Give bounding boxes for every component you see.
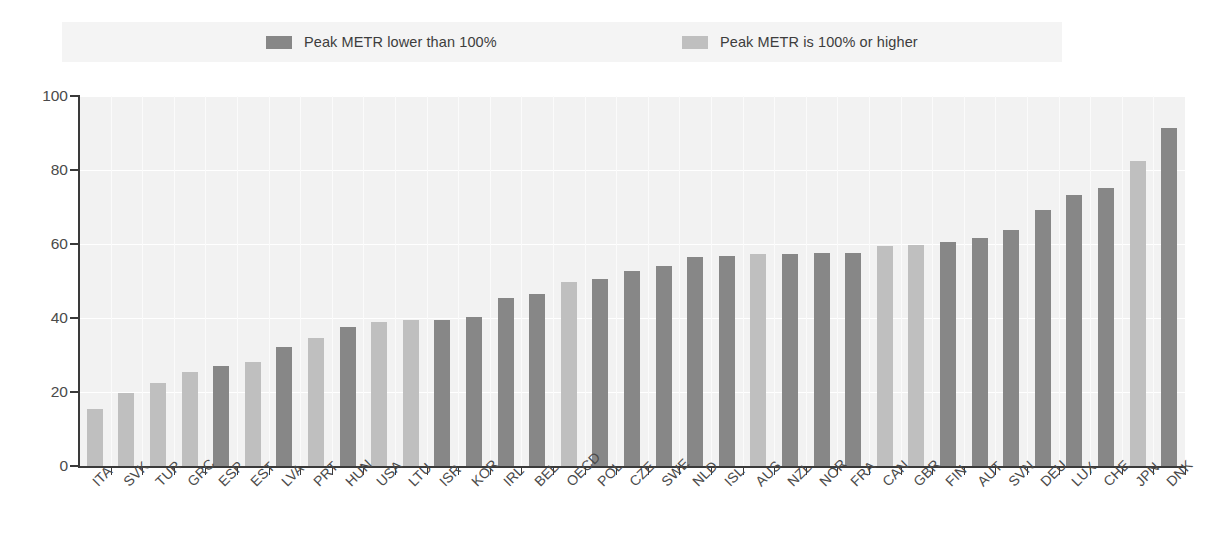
bar (656, 266, 672, 466)
vertical-gridline (458, 96, 459, 466)
bar (1161, 128, 1177, 466)
bar (276, 347, 292, 466)
gridline (79, 170, 1185, 171)
bar (782, 254, 798, 466)
bar (308, 338, 324, 466)
vertical-gridline (1059, 96, 1060, 466)
y-axis-tick (70, 95, 79, 97)
gridline (79, 96, 1185, 97)
y-axis-tick (70, 391, 79, 393)
bar (908, 245, 924, 466)
bar (814, 253, 830, 466)
vertical-gridline (1027, 96, 1028, 466)
vertical-gridline (679, 96, 680, 466)
vertical-gridline (964, 96, 965, 466)
bar (466, 317, 482, 466)
vertical-gridline (300, 96, 301, 466)
vertical-gridline (1122, 96, 1123, 466)
vertical-gridline (490, 96, 491, 466)
vertical-gridline (711, 96, 712, 466)
vertical-gridline (648, 96, 649, 466)
vertical-gridline (743, 96, 744, 466)
vertical-gridline (205, 96, 206, 466)
bar (245, 362, 261, 466)
y-axis-tick-label: 80 (28, 161, 68, 179)
vertical-gridline (363, 96, 364, 466)
bar (687, 257, 703, 466)
vertical-gridline (837, 96, 838, 466)
bar (118, 393, 134, 466)
y-axis-tick (70, 465, 79, 467)
vertical-gridline (901, 96, 902, 466)
bar-chart: 020406080100 ITASVKTURGRCESPESTLVAPRTHUN… (0, 0, 1220, 548)
y-axis-tick-label: 0 (28, 457, 68, 475)
vertical-gridline (553, 96, 554, 466)
vertical-gridline (237, 96, 238, 466)
vertical-gridline (774, 96, 775, 466)
y-axis-tick-label: 40 (28, 309, 68, 327)
bar (592, 279, 608, 466)
bar (434, 320, 450, 466)
bar (340, 327, 356, 466)
y-axis-tick-label: 100 (28, 87, 68, 105)
vertical-gridline (332, 96, 333, 466)
bar (1098, 188, 1114, 466)
vertical-gridline (174, 96, 175, 466)
bar (624, 271, 640, 466)
vertical-gridline (111, 96, 112, 466)
vertical-gridline (1153, 96, 1154, 466)
y-axis-line (78, 95, 80, 467)
vertical-gridline (869, 96, 870, 466)
y-axis-tick-label: 20 (28, 383, 68, 401)
bar (1066, 195, 1082, 466)
bar (845, 253, 861, 466)
bar (182, 372, 198, 466)
bar (150, 383, 166, 466)
vertical-gridline (269, 96, 270, 466)
bar (750, 254, 766, 466)
vertical-gridline (395, 96, 396, 466)
bar (1003, 230, 1019, 466)
vertical-gridline (616, 96, 617, 466)
bar (1130, 161, 1146, 466)
bar (561, 282, 577, 466)
vertical-gridline (521, 96, 522, 466)
y-axis-tick-label: 60 (28, 235, 68, 253)
bar (498, 298, 514, 466)
bar (1035, 210, 1051, 466)
bar (719, 256, 735, 466)
bar (87, 409, 103, 466)
vertical-gridline (142, 96, 143, 466)
bar (529, 294, 545, 466)
vertical-gridline (995, 96, 996, 466)
bar (371, 322, 387, 466)
bar (940, 242, 956, 466)
vertical-gridline (932, 96, 933, 466)
vertical-gridline (806, 96, 807, 466)
bar (213, 366, 229, 466)
bar (972, 238, 988, 466)
vertical-gridline (585, 96, 586, 466)
y-axis-tick (70, 317, 79, 319)
bar (403, 320, 419, 466)
bar (877, 246, 893, 466)
vertical-gridline (1090, 96, 1091, 466)
y-axis-tick (70, 169, 79, 171)
y-axis-tick (70, 243, 79, 245)
vertical-gridline (427, 96, 428, 466)
